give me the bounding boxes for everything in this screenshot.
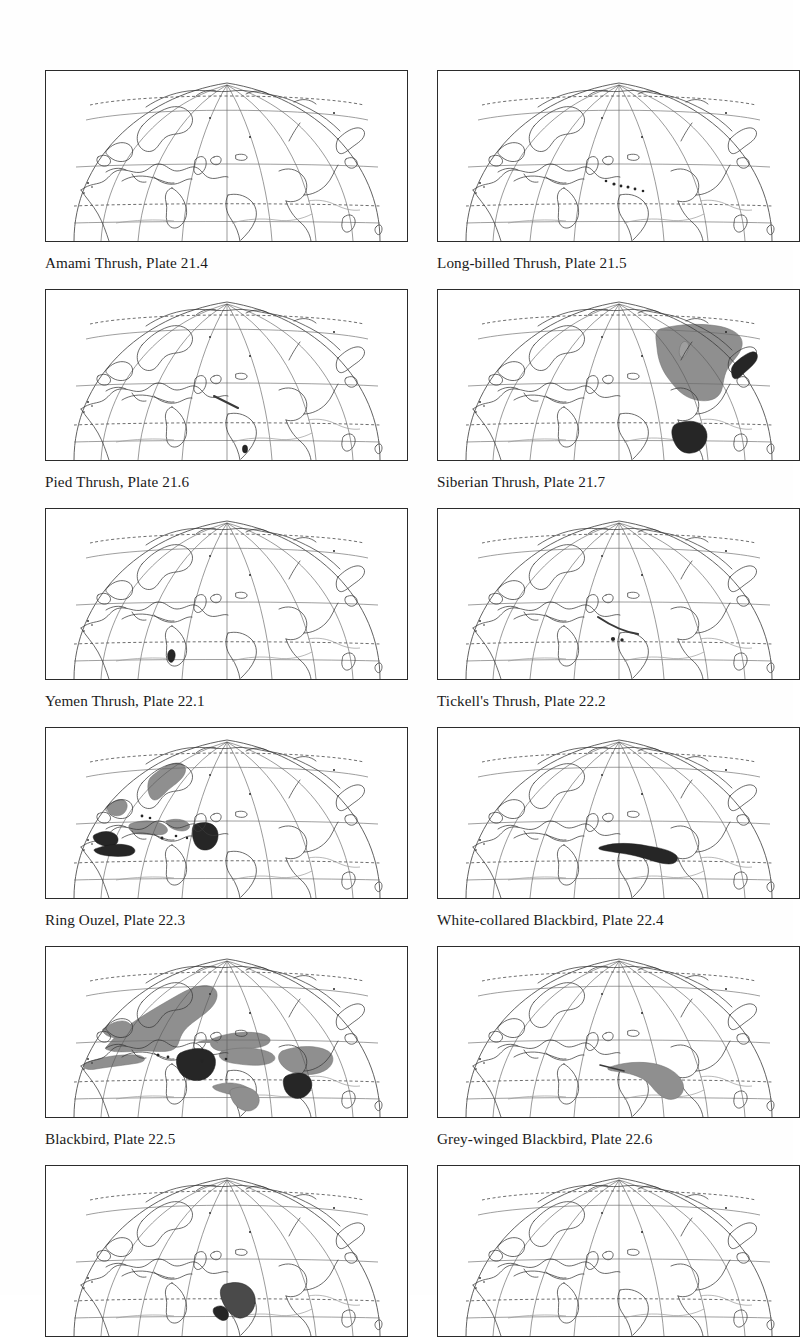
range-nw-africa (93, 831, 118, 846)
map-caption-12 (437, 1337, 800, 1341)
map-cell-11 (45, 1165, 408, 1341)
range-dots-himalaya (605, 180, 645, 193)
range-nw-africa-coast (84, 1055, 145, 1070)
range-iran-iraq (176, 1049, 215, 1081)
row-spacer (45, 275, 800, 289)
map-caption-4: Siberian Thrush, Plate 21.7 (437, 461, 800, 494)
map-frame-grey-winged-blackbird (437, 946, 800, 1118)
map-frame-amami-thrush (45, 70, 408, 242)
range-dot-india-2 (620, 638, 623, 641)
map-cell-1: Amami Thrush, Plate 21.4 (45, 70, 408, 275)
map-caption-6: Tickell's Thrush, Plate 22.2 (437, 680, 800, 713)
range-china (279, 1047, 333, 1075)
map-frame-tickells-thrush (437, 508, 800, 680)
row-spacer (45, 713, 800, 727)
map-caption-5: Yemen Thrush, Plate 22.1 (45, 680, 408, 713)
map-frame-long-billed-thrush (437, 70, 800, 242)
map-grid: Amami Thrush, Plate 21.4 Long-billed Thr (45, 70, 748, 1341)
map-cell-12 (437, 1165, 800, 1341)
range-iberia (94, 844, 135, 856)
range-alps (129, 821, 168, 835)
map-caption-2: Long-billed Thrush, Plate 21.5 (437, 242, 800, 275)
range-southern-india (230, 1087, 259, 1111)
range-britain (107, 800, 127, 816)
range-sri-lanka (242, 445, 247, 453)
row-spacer (45, 1151, 800, 1165)
range-dot-india-1 (611, 637, 615, 641)
range-line-himalaya (214, 396, 238, 408)
map-caption-3: Pied Thrush, Plate 21.6 (45, 461, 408, 494)
map-caption-10: Grey-winged Blackbird, Plate 22.6 (437, 1118, 800, 1151)
range-indochina (672, 421, 707, 453)
map-cell-9: Blackbird, Plate 22.5 (45, 946, 408, 1151)
range-siberia (656, 324, 742, 400)
map-cell-6: Tickell's Thrush, Plate 22.2 (437, 508, 800, 713)
map-cell-10: Grey-winged Blackbird, Plate 22.6 (437, 946, 800, 1151)
map-frame-white-collared-blackbird (437, 727, 800, 899)
map-cell-8: White-collared Blackbird, Plate 22.4 (437, 727, 800, 932)
map-cell-4: Siberian Thrush, Plate 21.7 (437, 289, 800, 494)
range-sw-arabia (168, 649, 176, 662)
map-caption-8: White-collared Blackbird, Plate 22.4 (437, 899, 800, 932)
map-cell-3: Pied Thrush, Plate 21.6 (45, 289, 408, 494)
map-caption-1: Amami Thrush, Plate 21.4 (45, 242, 408, 275)
row-spacer (45, 494, 800, 508)
map-frame-blackbird (45, 946, 408, 1118)
row-spacer (45, 932, 800, 946)
range-caucasus (192, 823, 218, 850)
map-frame-ring-ouzel (45, 727, 408, 899)
map-frame-row6-right (437, 1165, 800, 1337)
range-himalaya-sw-china (599, 843, 678, 864)
map-caption-7: Ring Ouzel, Plate 22.3 (45, 899, 408, 932)
map-cell-7: Ring Ouzel, Plate 22.3 (45, 727, 408, 932)
map-frame-pied-thrush (45, 289, 408, 461)
map-frame-row6-left (45, 1165, 408, 1337)
map-caption-11 (45, 1337, 408, 1341)
map-cell-2: Long-billed Thrush, Plate 21.5 (437, 70, 800, 275)
range-line-himalaya (598, 617, 638, 634)
range-mid-asia-band (219, 1048, 275, 1065)
range-se-china (283, 1073, 312, 1098)
map-cell-5: Yemen Thrush, Plate 22.1 (45, 508, 408, 713)
map-frame-siberian-thrush (437, 289, 800, 461)
map-caption-9: Blackbird, Plate 22.5 (45, 1118, 408, 1151)
map-frame-yemen-thrush (45, 508, 408, 680)
